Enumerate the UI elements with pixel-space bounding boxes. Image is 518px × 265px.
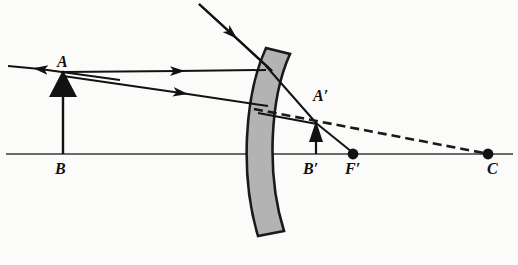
ray-from-A-parallel	[63, 70, 266, 72]
center-of-curvature-marker	[483, 149, 494, 160]
ray-incident-oblique-arrow	[199, 4, 272, 71]
ray-from-A-oblique	[63, 76, 268, 106]
ray-diagram-figure: A B A′ B′ F′ C	[0, 0, 518, 265]
label-F-prime: F′	[345, 161, 360, 177]
label-C: C	[487, 161, 498, 177]
label-B-prime: B′	[303, 161, 318, 177]
label-B: B	[55, 161, 66, 177]
focal-point-marker	[348, 149, 359, 160]
object-arrow	[49, 70, 77, 154]
ray-diagram-canvas	[0, 0, 518, 265]
label-A-prime: A′	[313, 88, 328, 104]
chief-ray-dashed	[254, 109, 489, 154]
concave-mirror	[247, 48, 290, 236]
label-A: A	[57, 54, 68, 70]
